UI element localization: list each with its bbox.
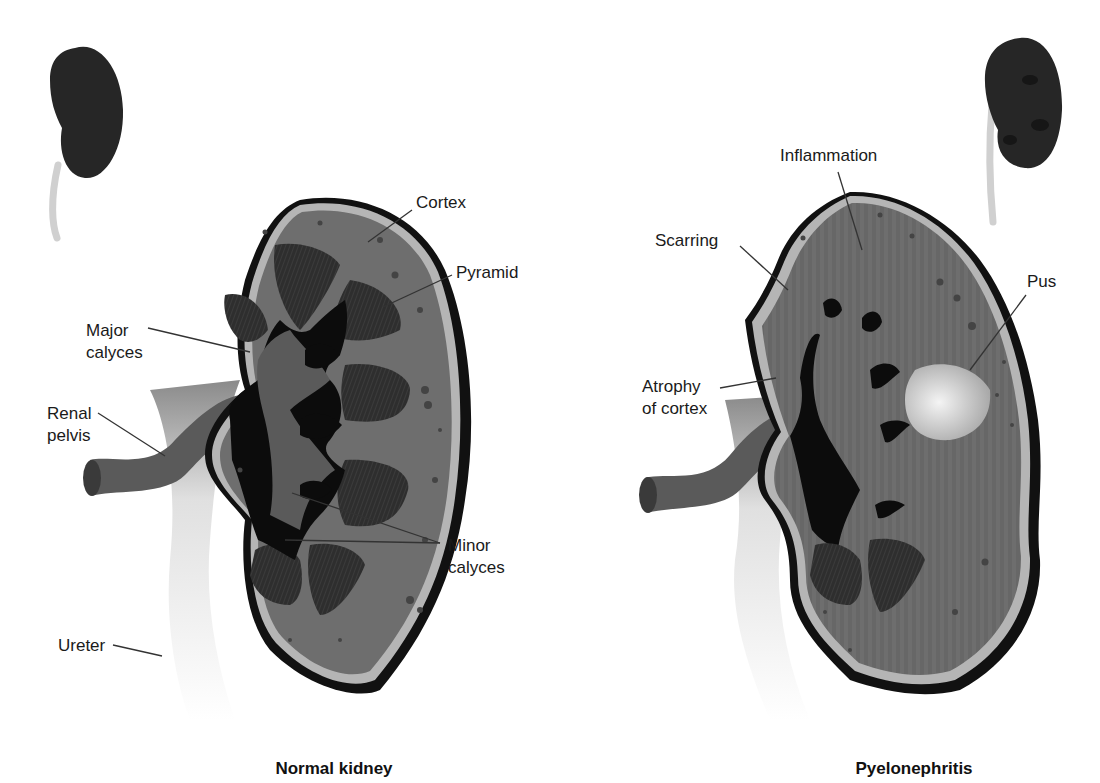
panel-title-pyelonephritis: Pyelonephritis — [855, 759, 972, 778]
normal-kidney-panel: Cortex Pyramid Major calyces Renal pelvi… — [47, 47, 518, 778]
pyelonephritis-whole-kidney-icon — [985, 38, 1062, 222]
kidney-comparison-diagram: Cortex Pyramid Major calyces Renal pelvi… — [0, 0, 1100, 783]
label-major-calyces-line1: Major — [86, 321, 129, 340]
label-atrophy-of-cortex-line1: Atrophy — [642, 377, 701, 396]
panel-title-normal: Normal kidney — [275, 759, 393, 778]
label-ureter: Ureter — [58, 636, 106, 655]
label-atrophy-of-cortex-line2: of cortex — [642, 399, 708, 418]
normal-vessel-opening — [83, 460, 101, 496]
label-minor-calyces-line2: calyces — [448, 558, 505, 577]
label-pus: Pus — [1027, 272, 1056, 291]
label-cortex: Cortex — [416, 193, 467, 212]
label-minor-calyces-line1: Minor — [448, 536, 491, 555]
normal-whole-kidney-icon — [50, 47, 123, 238]
label-renal-pelvis-line2: pelvis — [47, 426, 90, 445]
label-scarring: Scarring — [655, 231, 718, 250]
pyelonephritis-vessel-opening — [639, 477, 657, 513]
pyelonephritis-panel: Inflammation Scarring Pus Atrophy of cor… — [639, 38, 1062, 778]
label-renal-pelvis-line1: Renal — [47, 404, 91, 423]
label-inflammation: Inflammation — [780, 146, 877, 165]
label-pyramid: Pyramid — [456, 263, 518, 282]
label-major-calyces-line2: calyces — [86, 343, 143, 362]
